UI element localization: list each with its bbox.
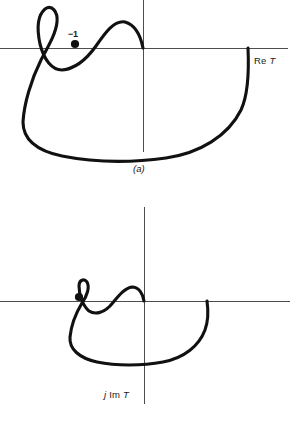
panel-b-plot — [0, 180, 296, 429]
critical-point-marker-a — [71, 40, 79, 48]
imaginary-axis-label-b: j Im T — [104, 390, 129, 400]
nyquist-contour-b — [70, 280, 208, 365]
critical-point-label-a: −1 — [68, 30, 78, 39]
panel-a: Re T −1 (a) — [0, 0, 296, 180]
nyquist-figure: Re T −1 (a) j Im T Re T −1 (b) — [0, 0, 296, 429]
panel-b: j Im T Re T −1 (b) — [0, 180, 296, 429]
panel-a-caption: (a) — [133, 163, 145, 174]
nyquist-contour-a — [23, 7, 248, 161]
critical-point-marker-b — [75, 293, 83, 301]
real-axis-label-a: Re T — [254, 56, 275, 66]
panel-a-plot — [0, 0, 296, 180]
